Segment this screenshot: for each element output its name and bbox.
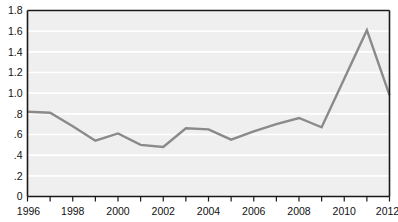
y-tick-label: 1.6 (8, 25, 23, 37)
chart-svg: 0.2.4.6.81.01.21.41.61.8 199619982000200… (0, 0, 398, 222)
y-tick-label: .4 (14, 149, 23, 161)
x-tick-label: 2010 (333, 205, 357, 217)
x-axis-tick-labels: 199619982000200220042006200820102012 (17, 205, 398, 217)
x-tick-label: 2004 (197, 205, 221, 217)
plot-background (28, 11, 390, 197)
y-axis-tick-labels: 0.2.4.6.81.01.21.41.61.8 (8, 4, 23, 202)
y-tick-label: 1.8 (8, 4, 23, 16)
y-tick-label: 1.0 (8, 87, 23, 99)
x-tick-label: 2012 (376, 205, 398, 217)
x-tick-label: 1998 (61, 205, 85, 217)
y-tick-label: .8 (14, 108, 23, 120)
y-tick-label: .2 (14, 170, 23, 182)
x-tick-label: 2008 (287, 205, 311, 217)
x-tick-label: 2002 (152, 205, 176, 217)
x-tick-label: 1996 (17, 205, 41, 217)
line-chart-figure: 0.2.4.6.81.01.21.41.61.8 199619982000200… (0, 0, 398, 222)
x-tick-label: 2000 (106, 205, 130, 217)
y-tick-label: 1.4 (8, 46, 23, 58)
x-tick-label: 2006 (242, 205, 266, 217)
y-tick-label: 1.2 (8, 66, 23, 78)
plot-background-group (28, 11, 390, 197)
y-tick-label: .6 (14, 128, 23, 140)
plot-area-container: 0.2.4.6.81.01.21.41.61.8 199619982000200… (0, 0, 398, 222)
y-tick-label: 0 (17, 190, 23, 202)
